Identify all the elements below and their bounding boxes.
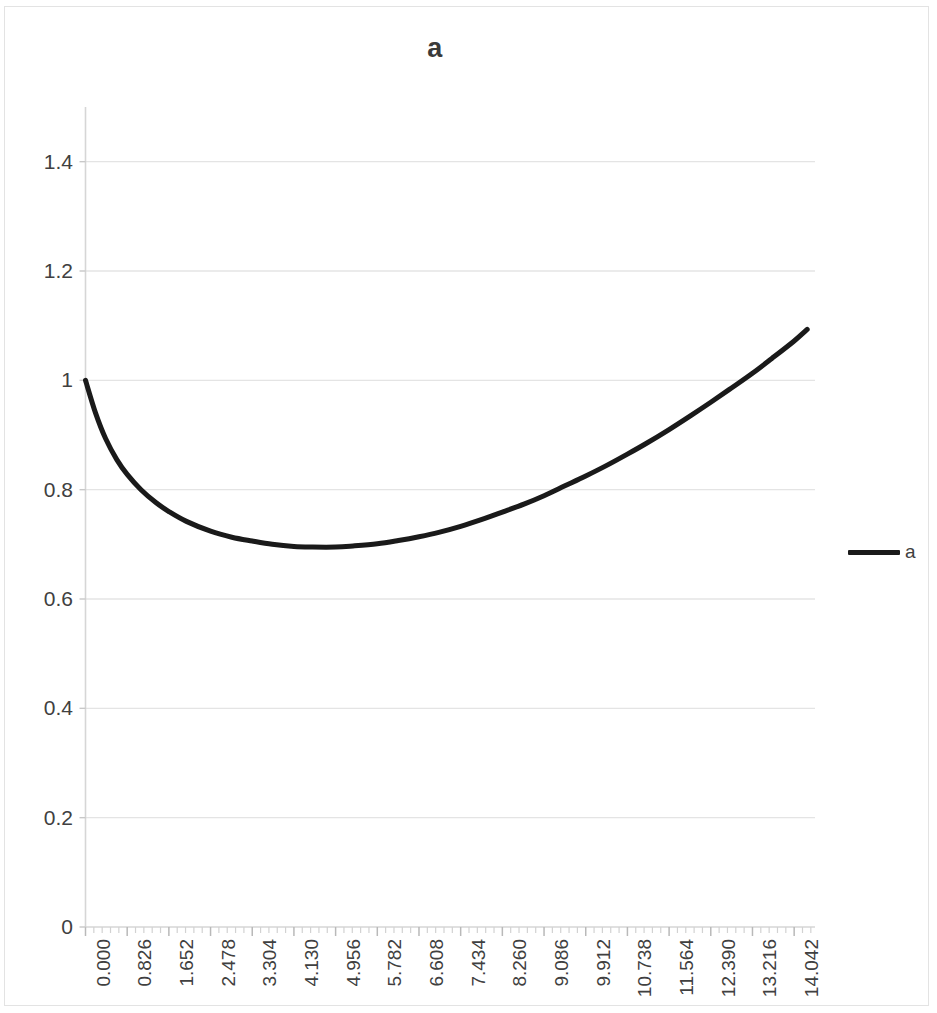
x-axis-tick-label: 14.042 <box>801 939 823 997</box>
x-axis-tick-label: 4.956 <box>343 939 365 987</box>
x-axis-tick-label: 7.434 <box>468 939 490 987</box>
x-axis-tick-label: 5.782 <box>384 939 406 987</box>
x-axis-tick-label: 13.216 <box>759 939 781 997</box>
x-axis-tick-label: 2.478 <box>218 939 240 987</box>
x-axis-tick-label: 9.086 <box>551 939 573 987</box>
x-axis-tick-label: 0.000 <box>93 939 115 987</box>
x-axis-tick-label: 3.304 <box>259 939 281 987</box>
legend: a <box>848 541 916 563</box>
legend-label-a: a <box>905 541 916 563</box>
x-axis-tick-label: 8.260 <box>509 939 531 987</box>
x-axis-tick-label: 6.608 <box>426 939 448 987</box>
x-axis-tick-label: 0.826 <box>134 939 156 987</box>
x-axis-tick-label: 11.564 <box>676 939 698 996</box>
chart-container: a 00.20.40.60.811.21.4 0.0000.8261.6522.… <box>4 6 929 1006</box>
x-axis-labels: 0.0000.8261.6522.4783.3044.1304.9565.782… <box>5 7 937 1013</box>
x-axis-tick-label: 10.738 <box>634 939 656 997</box>
legend-line-swatch-a <box>848 550 900 555</box>
x-axis-tick-label: 1.652 <box>176 939 198 987</box>
x-axis-tick-label: 12.390 <box>718 939 740 997</box>
x-axis-tick-label: 4.130 <box>301 939 323 987</box>
x-axis-tick-label: 9.912 <box>593 939 615 987</box>
